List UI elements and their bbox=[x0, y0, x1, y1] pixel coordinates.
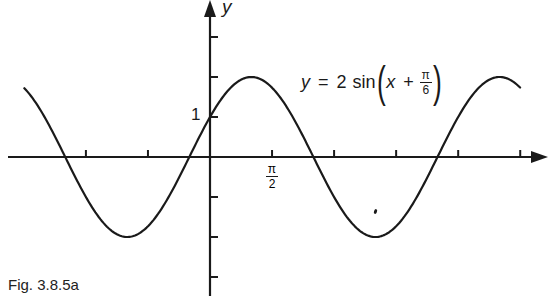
y-axis-arrow-icon bbox=[204, 0, 216, 17]
equation-arg-var: x bbox=[386, 72, 395, 93]
fraction-numerator: π bbox=[268, 163, 276, 175]
fraction-denominator: 6 bbox=[422, 84, 429, 96]
figure-caption: Fig. 3.8.5a bbox=[8, 276, 79, 293]
right-paren-icon: ) bbox=[433, 62, 442, 102]
equation-equals: = bbox=[318, 72, 329, 93]
x-tick-label-pi-over-2: π 2 bbox=[266, 163, 278, 190]
equation-lhs: y bbox=[301, 72, 310, 93]
equation-function: sin bbox=[353, 72, 376, 93]
y-tick-label-one: 1 bbox=[191, 105, 200, 125]
left-paren-icon: ( bbox=[376, 62, 385, 102]
equation-fraction: π 6 bbox=[420, 69, 432, 96]
equation-label: y = 2 sin ( x + π 6 ) bbox=[301, 62, 442, 102]
fraction-numerator: π bbox=[422, 69, 430, 81]
equation-coefficient: 2 bbox=[337, 72, 347, 93]
y-axis-label: y bbox=[222, 0, 232, 18]
fraction-denominator: 2 bbox=[269, 178, 276, 190]
equation-plus: + bbox=[403, 72, 414, 93]
sine-graph bbox=[0, 0, 548, 298]
x-axis-arrow-icon bbox=[531, 151, 548, 163]
